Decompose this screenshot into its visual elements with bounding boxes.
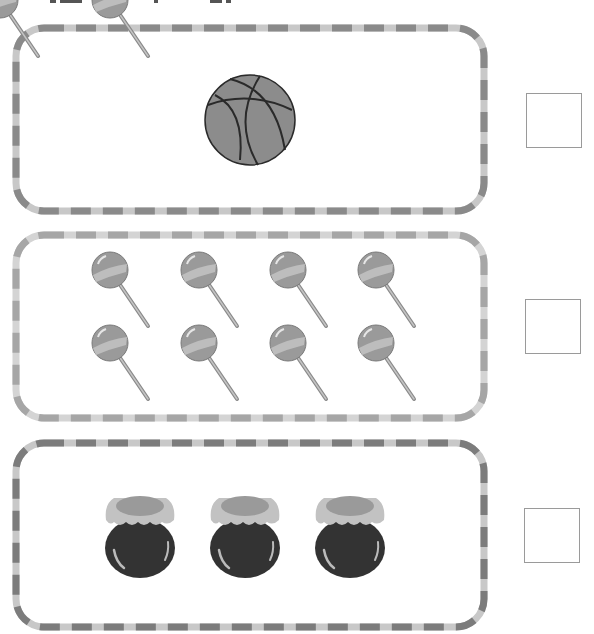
honey-jar-icon [315, 496, 385, 578]
lollipop-icon [358, 252, 414, 326]
answer-box-lollipop[interactable] [525, 299, 581, 354]
lollipop-icon [270, 252, 326, 326]
answer-box-basketball[interactable] [526, 93, 582, 148]
lollipop-icon [358, 325, 414, 399]
lollipops [0, 0, 594, 634]
lollipop-icon [92, 325, 148, 399]
answer-box-honey-jar[interactable] [524, 508, 580, 563]
honey-jar-icon [105, 496, 175, 578]
lollipop-icon [181, 252, 237, 326]
lollipop-icon [181, 325, 237, 399]
honey-jar-icon [210, 496, 280, 578]
lollipop-icon [92, 252, 148, 326]
lollipop-icon [270, 325, 326, 399]
